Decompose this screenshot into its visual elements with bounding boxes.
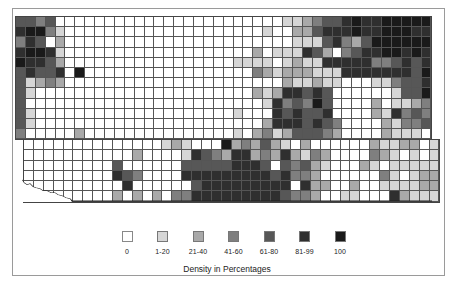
grid-cell (46, 27, 56, 37)
grid-cell (174, 88, 184, 98)
grid-cell (331, 150, 341, 160)
grid-cell (36, 78, 46, 88)
grid-cell (311, 150, 321, 160)
grid-cell (243, 37, 253, 47)
grid-cell (95, 58, 105, 68)
grid-cell (273, 48, 283, 58)
grid-cell (352, 119, 362, 129)
grid-cell (392, 88, 402, 98)
grid-cell (422, 129, 432, 139)
grid-cell (73, 140, 83, 150)
grid-cell (271, 161, 281, 171)
grid-cell (243, 58, 253, 68)
grid-cell (253, 37, 263, 47)
grid-cell (242, 161, 252, 171)
grid-cell (263, 48, 273, 58)
legend-label: 41-60 (214, 248, 254, 255)
grid-cell (194, 109, 204, 119)
grid-cell (65, 37, 75, 47)
grid-cell (16, 68, 26, 78)
grid-cell (184, 27, 194, 37)
grid-cell (263, 78, 273, 88)
grid-cell (303, 17, 313, 27)
grid-cell (154, 17, 164, 27)
grid-cell (293, 119, 303, 129)
grid-cell (313, 27, 323, 37)
grid-cell (174, 129, 184, 139)
grid-cell (65, 78, 75, 88)
grid-cell (380, 181, 390, 191)
grid-cell (145, 37, 155, 47)
grid-cell (253, 27, 263, 37)
grid-cell (301, 150, 311, 160)
grid-cell (392, 68, 402, 78)
grid-cell (372, 58, 382, 68)
grid-cell (243, 119, 253, 129)
grid-cell (430, 150, 440, 160)
grid-cell (422, 27, 432, 37)
grid-cell (103, 161, 113, 171)
grid-cell (222, 191, 232, 201)
grid-cell (34, 161, 44, 171)
grid-cell (194, 58, 204, 68)
density-grid-upper (15, 16, 432, 140)
grid-cell (412, 17, 422, 27)
grid-cell (313, 129, 323, 139)
grid-cell (46, 37, 56, 47)
grid-cell (26, 88, 36, 98)
grid-cell (362, 37, 372, 47)
grid-cell (222, 140, 232, 150)
grid-cell (253, 17, 263, 27)
grid-cell (26, 68, 36, 78)
grid-cell (95, 129, 105, 139)
grid-cell (154, 119, 164, 129)
grid-cell (412, 78, 422, 88)
grid-cell (174, 109, 184, 119)
grid-cell (380, 191, 390, 201)
grid-cell (145, 58, 155, 68)
grid-cell (184, 99, 194, 109)
grid-cell (333, 88, 343, 98)
grid-cell (75, 58, 85, 68)
grid-cell (420, 140, 430, 150)
grid-cell (73, 171, 83, 181)
grid-cell (390, 171, 400, 181)
grid-cell (273, 99, 283, 109)
grid-cell (184, 58, 194, 68)
grid-cell (214, 119, 224, 129)
grid-cell (56, 119, 66, 129)
grid-cell (154, 99, 164, 109)
grid-cell (135, 37, 145, 47)
grid-cell (172, 140, 182, 150)
grid-cell (400, 191, 410, 201)
grid-cell (85, 17, 95, 27)
grid-cell (412, 99, 422, 109)
grid-cell (222, 181, 232, 191)
grid-cell (410, 150, 420, 160)
grid-cell (251, 161, 261, 171)
grid-cell (281, 181, 291, 191)
grid-cell (382, 119, 392, 129)
grid-cell (164, 68, 174, 78)
grid-cell (422, 37, 432, 47)
grid-cell (143, 191, 153, 201)
grid-cell (283, 99, 293, 109)
grid-cell (372, 129, 382, 139)
grid-cell (125, 68, 135, 78)
grid-cell (143, 171, 153, 181)
grid-cell (24, 171, 34, 181)
grid-cell (164, 58, 174, 68)
legend-swatch (228, 231, 239, 242)
grid-cell (46, 129, 56, 139)
grid-cell (95, 68, 105, 78)
grid-cell (54, 161, 64, 171)
grid-cell (115, 119, 125, 129)
grid-cell (105, 58, 115, 68)
grid-cell (16, 109, 26, 119)
legend-label: 0 (107, 248, 147, 255)
grid-cell (85, 48, 95, 58)
grid-cell (362, 119, 372, 129)
grid-cell (291, 161, 301, 171)
grid-cell (350, 161, 360, 171)
grid-cell (370, 161, 380, 171)
